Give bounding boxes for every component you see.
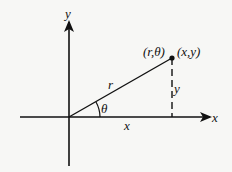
polar-point-label: (r,θ) — [143, 44, 165, 59]
y-leg-label: y — [172, 81, 180, 96]
rect-point-label: (x,y) — [177, 44, 200, 59]
radius-label: r — [108, 77, 114, 92]
radius-line — [69, 58, 172, 117]
x-leg-label: x — [123, 118, 130, 133]
point-marker — [169, 55, 174, 60]
theta-arc — [96, 102, 100, 117]
x-axis-label: x — [211, 110, 218, 125]
y-axis-label: y — [63, 6, 71, 21]
theta-label: θ — [101, 101, 108, 116]
polar-coordinates-diagram: y x r θ x y (r,θ) (x,y) — [0, 0, 232, 172]
